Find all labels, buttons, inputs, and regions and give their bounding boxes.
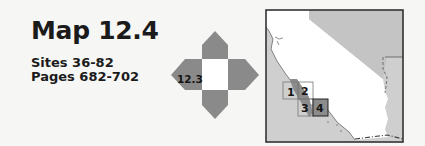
grid-label-3: 3 bbox=[301, 102, 309, 115]
west-map-label[interactable]: 12.3 bbox=[177, 73, 203, 85]
map-info: Sites 36-82 Pages 682-702 bbox=[31, 56, 139, 84]
pages-range: Pages 682-702 bbox=[31, 70, 139, 84]
grid-label-1: 1 bbox=[287, 86, 295, 99]
east-arrow-icon[interactable] bbox=[228, 59, 259, 90]
locator-map: 1 2 3 4 bbox=[265, 9, 404, 143]
north-arrow-icon[interactable] bbox=[202, 31, 228, 59]
adjacent-map-navigator: 12.3 bbox=[160, 20, 270, 140]
map-title: Map 12.4 bbox=[31, 18, 159, 43]
grid-label-4: 4 bbox=[316, 102, 324, 115]
grid-label-2: 2 bbox=[301, 85, 309, 98]
south-arrow-icon[interactable] bbox=[202, 90, 228, 119]
current-map-square bbox=[202, 59, 228, 90]
sites-range: Sites 36-82 bbox=[31, 56, 139, 70]
